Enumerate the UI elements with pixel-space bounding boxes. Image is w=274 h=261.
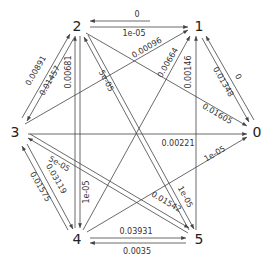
graph-canvas: 0 1e-05 0.00096 0.00664 0.00146 0 0.0134… bbox=[0, 0, 274, 261]
edge-label-0-1: 0 bbox=[233, 72, 243, 81]
edge-label-4-1: 0.00664 bbox=[156, 46, 180, 79]
edge-label-2-4: 1e-05 bbox=[82, 180, 91, 203]
edge-label-4-2: 0.00681 bbox=[64, 55, 73, 88]
edge-label-2-0: 0.01605 bbox=[201, 102, 234, 126]
edge-label-3-5: 0.01542 bbox=[150, 190, 183, 214]
edge-label-4-0: 1e-05 bbox=[203, 144, 227, 163]
node-4: 4 bbox=[73, 231, 82, 247]
edge-label-4-3: 0.01575 bbox=[28, 170, 52, 203]
edge-5-3 bbox=[28, 138, 188, 233]
edge-label-2-1: 1e-05 bbox=[122, 29, 145, 38]
edge-label-3-1: 0.00096 bbox=[130, 36, 163, 60]
node-2: 2 bbox=[73, 18, 82, 34]
edge-label-5-1: 0.00146 bbox=[184, 55, 193, 88]
node-3: 3 bbox=[11, 124, 20, 140]
edge-label-4-5: 0.03931 bbox=[119, 227, 152, 236]
edge-label-1-2: 0 bbox=[134, 10, 139, 19]
edge-label-5-4: 0.0035 bbox=[123, 247, 151, 256]
node-5: 5 bbox=[195, 231, 204, 247]
node-0: 0 bbox=[253, 124, 262, 140]
node-1: 1 bbox=[195, 18, 204, 34]
edge-label-3-0: 0.00221 bbox=[161, 139, 194, 148]
